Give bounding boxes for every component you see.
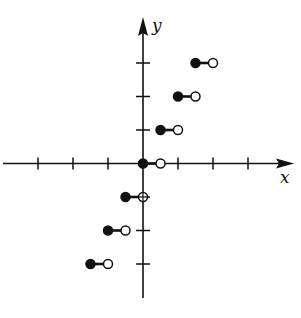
open-endpoint-circle <box>104 260 113 269</box>
open-endpoint-circle <box>209 59 218 68</box>
axes <box>3 17 294 298</box>
step-segment <box>104 226 131 235</box>
step-segment <box>174 92 201 101</box>
open-endpoint-circle <box>121 226 130 235</box>
closed-endpoint-dot <box>156 126 165 135</box>
open-endpoint-circle <box>174 126 183 135</box>
x-axis-label: x <box>280 167 290 187</box>
closed-endpoint-dot <box>121 193 130 202</box>
open-endpoint-circle <box>156 159 165 168</box>
closed-endpoint-dot <box>86 260 95 269</box>
closed-endpoint-dot <box>139 159 148 168</box>
step-function-chart: y x <box>0 0 301 318</box>
step-segment <box>156 126 183 135</box>
y-axis-label: y <box>151 15 162 35</box>
closed-endpoint-dot <box>104 226 113 235</box>
closed-endpoint-dot <box>174 92 183 101</box>
closed-endpoint-dot <box>191 59 200 68</box>
step-segment <box>191 59 218 68</box>
step-segment <box>86 260 113 269</box>
open-endpoint-circle <box>191 92 200 101</box>
step-segment <box>139 159 166 168</box>
